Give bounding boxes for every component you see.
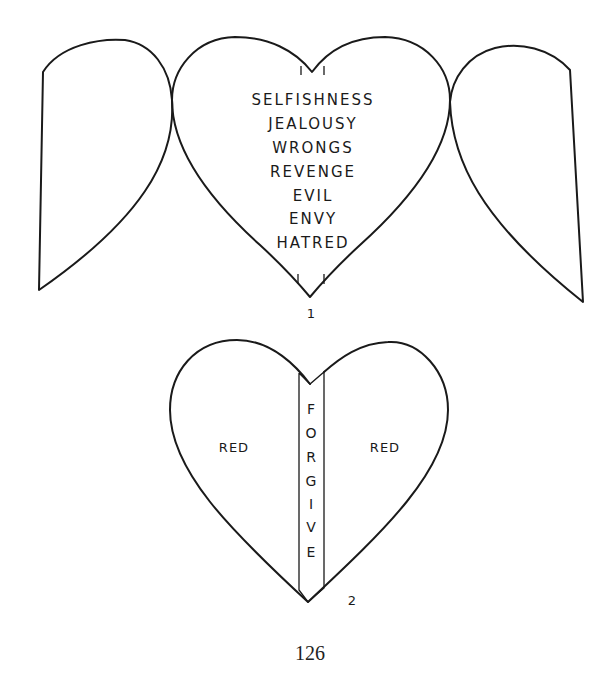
figure-2-number: 2 xyxy=(348,593,356,608)
figure-1-number: 1 xyxy=(307,306,315,321)
figure-2: RED RED F O R G I V E 2 xyxy=(170,340,448,608)
strip-letter-o: O xyxy=(305,425,316,441)
right-red-label: RED xyxy=(370,440,400,455)
strip-letter-f: F xyxy=(307,401,315,417)
word-jealousy: JEALOUSY xyxy=(267,115,357,133)
page-number: 126 xyxy=(295,642,325,664)
strip-letter-g: G xyxy=(306,473,317,489)
strip-letter-v: V xyxy=(306,519,316,535)
left-red-label: RED xyxy=(219,440,249,455)
strip-letter-e: E xyxy=(307,544,316,560)
bottom-heart-shape xyxy=(170,340,448,602)
word-selfishness: SELFISHNESS xyxy=(252,91,375,109)
heart-craft-diagram: SELFISHNESS JEALOUSY WRONGS REVENGE EVIL… xyxy=(0,0,615,681)
strip-letter-r: R xyxy=(306,449,316,465)
strip-letter-i: I xyxy=(309,496,313,512)
word-envy: ENVY xyxy=(289,210,337,228)
word-evil: EVIL xyxy=(293,187,334,205)
right-flap-shape xyxy=(450,46,583,302)
figure-1: SELFISHNESS JEALOUSY WRONGS REVENGE EVIL… xyxy=(39,37,583,321)
word-hatred: HATRED xyxy=(277,234,350,252)
word-wrongs: WRONGS xyxy=(272,139,353,157)
word-revenge: REVENGE xyxy=(270,163,356,181)
left-flap-shape xyxy=(39,40,172,290)
